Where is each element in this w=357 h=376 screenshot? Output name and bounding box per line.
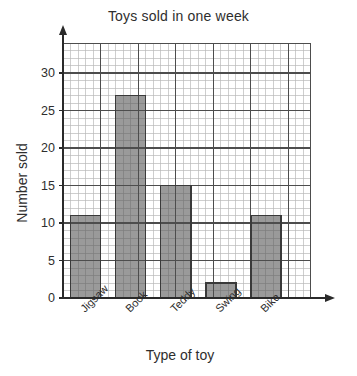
y-tick-label: 5 [29, 255, 55, 268]
y-tick-label: 20 [29, 142, 55, 155]
y-tick-label: 15 [29, 180, 55, 193]
y-tick-label: 10 [29, 217, 55, 230]
plot-area [63, 43, 311, 298]
x-axis-title: Type of toy [40, 347, 320, 363]
y-tick-label: 25 [29, 105, 55, 118]
bar-chart: Toys sold in one week Number sold Type o… [0, 0, 357, 376]
chart-title: Toys sold in one week [0, 8, 357, 24]
plot-svg [63, 43, 311, 298]
y-tick-label: 30 [29, 67, 55, 80]
y-axis-arrow [59, 25, 67, 35]
y-tick-label: 0 [29, 292, 55, 305]
y-axis-title: Number sold [14, 113, 30, 253]
x-axis-arrow [325, 294, 335, 302]
